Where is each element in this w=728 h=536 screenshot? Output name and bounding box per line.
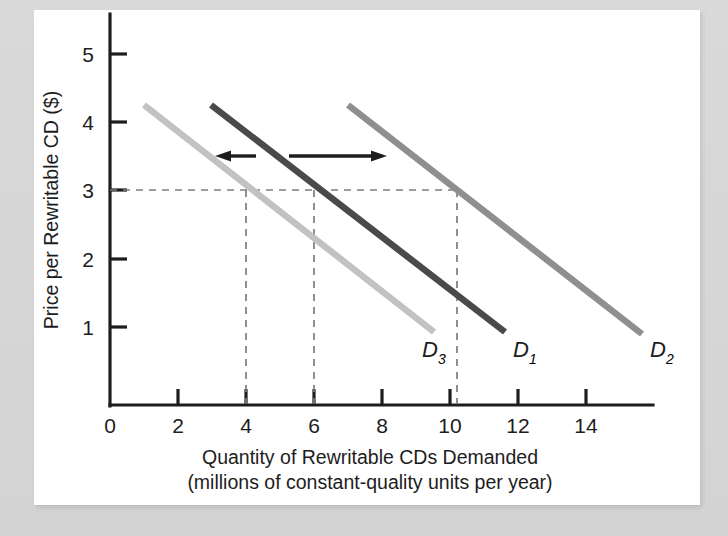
curve-label-D2: D 2 [650, 337, 674, 367]
x-axis-tick-labels: 0 2 4 6 8 10 12 14 [104, 414, 598, 437]
curve-label-D3-subscript: 3 [438, 351, 446, 367]
y-tick-label-1: 1 [82, 316, 94, 339]
x-tick-label-2: 2 [172, 414, 184, 437]
y-axis-tick-labels: 5 4 3 2 1 [82, 43, 94, 339]
curve-label-D1: D 1 [513, 337, 537, 367]
demand-shift-chart: 5 4 3 2 1 0 2 4 6 8 10 12 14 [0, 0, 728, 536]
curve-label-D3: D 3 [422, 337, 446, 367]
curve-label-D2-subscript: 2 [665, 351, 674, 367]
curve-labels-group: D 3 D 1 D 2 [422, 337, 674, 367]
demand-curves-group [144, 105, 642, 334]
axes-group [110, 14, 653, 406]
curve-label-D2-letter: D [650, 337, 666, 362]
y-tick-label-3: 3 [82, 179, 94, 202]
x-tick-label-10: 10 [438, 414, 461, 437]
x-tick-label-12: 12 [506, 414, 529, 437]
x-tick-label-6: 6 [308, 414, 320, 437]
x-axis-ticks [178, 389, 586, 405]
x-axis-title-line2: (millions of constant-quality units per … [187, 471, 552, 493]
axis-titles-group: Price per Rewritable CD ($) Quantity of … [40, 91, 553, 493]
curve-label-D1-letter: D [513, 337, 529, 362]
increase-shift-arrow [289, 151, 387, 162]
reference-lines-group [110, 190, 457, 404]
curve-label-D3-letter: D [422, 337, 438, 362]
decrease-shift-arrow [215, 151, 256, 162]
increase-arrow-head [371, 151, 387, 162]
demand-curve-D1[interactable] [211, 105, 505, 332]
y-tick-label-2: 2 [82, 248, 94, 271]
curve-label-D1-subscript: 1 [529, 351, 537, 367]
x-tick-label-0: 0 [104, 414, 116, 437]
x-tick-label-8: 8 [376, 414, 388, 437]
y-tick-label-5: 5 [82, 43, 94, 66]
x-axis-title-line1: Quantity of Rewritable CDs Demanded [202, 446, 538, 468]
x-tick-label-4: 4 [240, 414, 252, 437]
y-tick-label-4: 4 [82, 111, 94, 134]
y-axis-title: Price per Rewritable CD ($) [40, 91, 62, 329]
shift-arrows-group [215, 151, 387, 162]
x-tick-label-14: 14 [574, 414, 598, 437]
figure-root: 5 4 3 2 1 0 2 4 6 8 10 12 14 [0, 0, 728, 536]
